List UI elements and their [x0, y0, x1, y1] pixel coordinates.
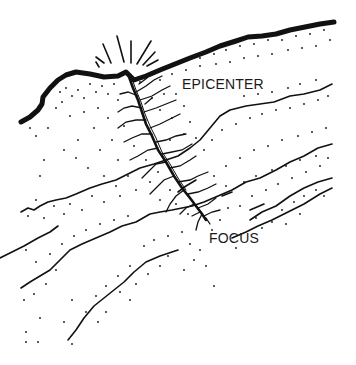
focus-label: FOCUS: [209, 231, 259, 245]
stratum-5: [250, 178, 332, 220]
fracture-branches: [118, 76, 220, 230]
epicenter-label: EPICENTER: [182, 77, 264, 91]
epicenter-burst-icon: [96, 36, 158, 67]
stratum-4: [0, 226, 58, 258]
stratum-7: [250, 204, 264, 210]
ground-surface-line: [21, 22, 334, 122]
diagram-drawing: [0, 0, 356, 365]
stratum-3: [68, 250, 178, 340]
earthquake-diagram: EPICENTER FOCUS: [0, 0, 356, 365]
stratum-1: [21, 84, 332, 212]
fault-line: [128, 74, 206, 220]
